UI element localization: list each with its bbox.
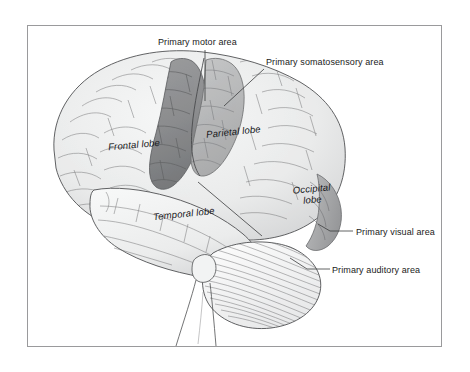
callout-label-primary-somatosensory-area: Primary somatosensory area (266, 57, 384, 68)
callout-label-primary-motor-area: Primary motor area (158, 37, 237, 48)
pons (192, 255, 216, 283)
medulla-and-cord-left (176, 280, 196, 346)
cerebellum-outline (202, 242, 320, 329)
cord-midline (198, 292, 203, 344)
region-label-occipital-lobe: Occipital lobe (284, 181, 340, 208)
callout-label-primary-auditory-area: Primary auditory area (332, 265, 420, 276)
brain-diagram-illustration (0, 0, 470, 372)
cerebellum-group (202, 240, 322, 331)
region-label-occipital-lobe-line2: lobe (303, 193, 322, 206)
callout-label-primary-visual-area: Primary visual area (356, 227, 435, 238)
figure-page: Primary motor area Primary somatosensory… (0, 0, 470, 372)
